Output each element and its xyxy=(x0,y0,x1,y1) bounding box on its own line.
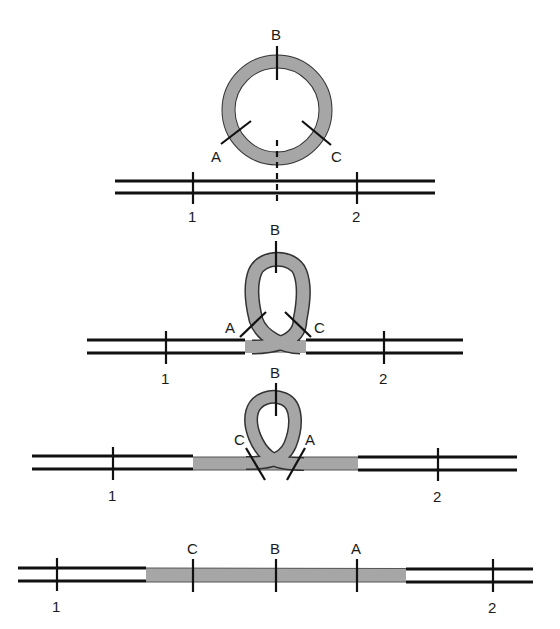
label-a: A xyxy=(211,148,221,165)
label-2: 2 xyxy=(488,599,496,616)
label-c: C xyxy=(234,431,245,448)
label-c: C xyxy=(331,148,342,165)
label-b: B xyxy=(270,364,280,381)
label-1: 1 xyxy=(108,487,116,504)
label-a: A xyxy=(305,431,315,448)
label-1: 1 xyxy=(188,208,196,225)
panel-2: B A C 1 2 xyxy=(87,221,463,387)
label-b: B xyxy=(271,26,281,43)
label-2: 2 xyxy=(352,208,360,225)
label-a: A xyxy=(351,540,361,557)
integration-diagram: B A C 1 2 B A C xyxy=(0,0,560,629)
label-2: 2 xyxy=(379,370,387,387)
label-c: C xyxy=(314,319,325,336)
label-a: A xyxy=(225,319,235,336)
label-1: 1 xyxy=(161,370,169,387)
diagram-stage: B A C 1 2 B A C xyxy=(0,0,560,629)
label-b: B xyxy=(270,221,280,238)
label-2: 2 xyxy=(433,488,441,505)
panel-4: C B A 1 2 xyxy=(18,540,533,616)
label-c: C xyxy=(187,540,198,557)
panel-3: B C A 1 2 xyxy=(32,364,517,505)
label-b: B xyxy=(270,540,280,557)
panel-1: B A C 1 2 xyxy=(115,26,435,225)
label-1: 1 xyxy=(52,598,60,615)
